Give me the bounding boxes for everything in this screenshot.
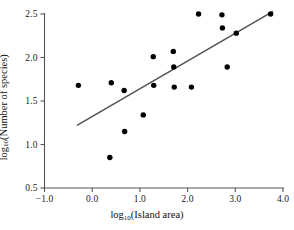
- data-point: [121, 88, 126, 93]
- scatter-plot-figure: −1.00.01.02.03.04.00.51.01.52.02.5 log10…: [0, 0, 294, 230]
- x-tick-label: −1.0: [36, 194, 54, 204]
- data-point: [268, 11, 273, 16]
- y-axis-title-rest: (Number of species): [0, 54, 9, 140]
- x-tick-label: 2.0: [182, 194, 194, 204]
- data-point: [171, 49, 176, 54]
- x-tick-label: 4.0: [277, 194, 289, 204]
- data-points: [76, 11, 274, 160]
- x-tick-label: 3.0: [229, 194, 241, 204]
- data-point: [234, 30, 239, 35]
- x-axis-title-rest: (Island area): [131, 209, 184, 220]
- x-tick-label: 1.0: [134, 194, 146, 204]
- y-axis-title-prefix: log: [0, 147, 9, 160]
- data-point: [171, 64, 176, 69]
- data-point: [220, 25, 225, 30]
- data-point: [151, 54, 156, 59]
- y-tick-label: 0.5: [16, 183, 38, 193]
- data-point: [76, 83, 81, 88]
- data-point: [224, 64, 229, 69]
- data-point: [189, 84, 194, 89]
- y-tick-label: 1.5: [16, 96, 38, 106]
- data-point: [107, 155, 112, 160]
- data-point: [141, 112, 146, 117]
- data-point: [109, 80, 114, 85]
- data-point: [172, 84, 177, 89]
- y-tick-label: 2.5: [16, 9, 38, 19]
- x-axis-title: log10(Island area): [110, 209, 183, 222]
- data-point: [196, 11, 201, 16]
- x-axis-title-prefix: log: [110, 209, 123, 220]
- y-tick-label: 2.0: [16, 53, 38, 63]
- data-point: [219, 12, 224, 17]
- data-point: [151, 83, 156, 88]
- data-point: [122, 129, 127, 134]
- y-tick-label: 1.0: [16, 140, 38, 150]
- y-axis-title: log10(Number of species): [0, 54, 10, 160]
- y-axis-title-subscript: 10: [2, 140, 10, 147]
- x-tick-label: 0.0: [86, 194, 98, 204]
- axes: [41, 13, 285, 192]
